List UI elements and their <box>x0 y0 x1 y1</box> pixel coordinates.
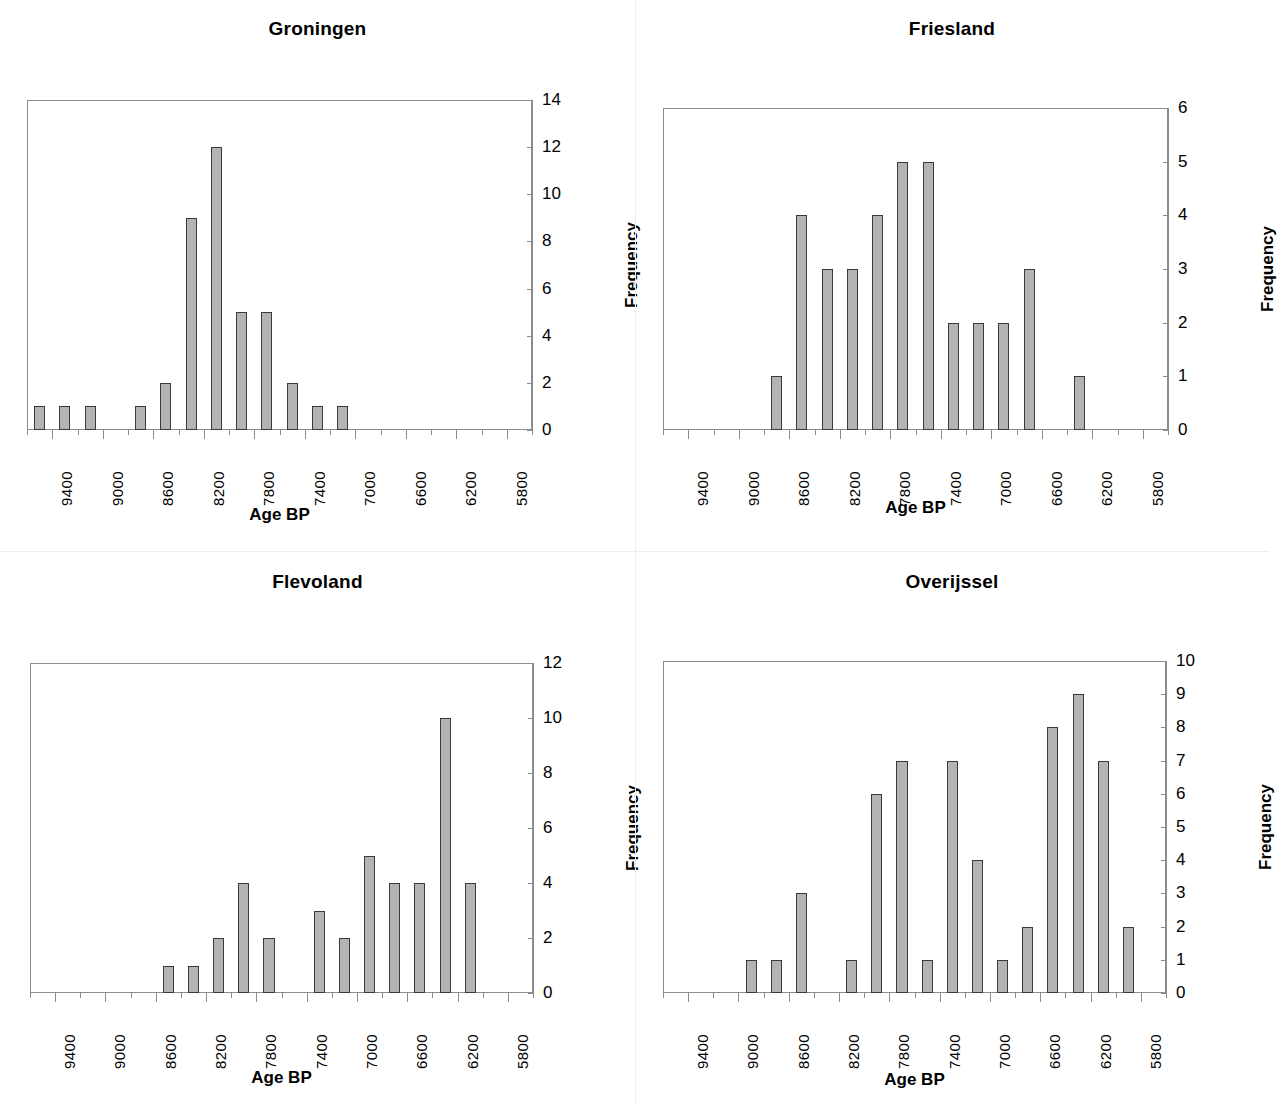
x-axis-tick <box>432 993 433 998</box>
x-axis-tick <box>1118 430 1119 435</box>
x-axis-tick-label: 5800 <box>1147 1034 1164 1069</box>
x-axis-tick <box>30 993 31 998</box>
y-axis-line <box>532 100 533 430</box>
histogram-bin <box>840 108 865 430</box>
y-axis-tick-label: 6 <box>542 279 551 299</box>
histogram-bin <box>256 663 281 993</box>
histogram-bar <box>1024 269 1035 430</box>
x-axis-tick-label: 7000 <box>363 1034 380 1069</box>
y-axis-tick <box>527 383 533 384</box>
histogram-bin <box>738 661 763 993</box>
y-axis-tick <box>1163 215 1169 216</box>
x-axis-tick <box>764 993 765 998</box>
x-axis-tick <box>1141 993 1142 1002</box>
x-axis-tick <box>231 993 232 998</box>
histogram-bar <box>948 323 959 430</box>
histogram-bin <box>27 100 52 430</box>
x-axis-tick-label: 7800 <box>262 1034 279 1069</box>
histogram-bin <box>940 661 965 993</box>
y-axis-tick <box>528 773 534 774</box>
y-axis-tick <box>527 194 533 195</box>
histogram-bin <box>1040 661 1065 993</box>
x-axis-tick <box>738 993 739 1002</box>
x-axis-tick <box>381 430 382 435</box>
y-axis-tick <box>1161 960 1167 961</box>
histogram-bin <box>105 663 130 993</box>
y-axis-tick-label: 0 <box>542 420 551 440</box>
y-axis-tick-label: 10 <box>542 184 561 204</box>
x-axis-tick <box>1091 993 1092 1002</box>
x-axis-tick <box>713 993 714 998</box>
histogram-bin <box>965 661 990 993</box>
x-axis-tick <box>688 430 689 439</box>
y-axis-tick-label: 8 <box>543 763 552 783</box>
histogram-bin <box>231 663 256 993</box>
x-axis-tick <box>507 430 508 439</box>
y-axis-tick <box>527 241 533 242</box>
x-axis-tick <box>1017 430 1018 435</box>
y-axis-tick <box>528 828 534 829</box>
histogram-bin <box>307 663 332 993</box>
x-axis-tick-label: 7800 <box>895 1034 912 1069</box>
histogram-bin <box>103 100 128 430</box>
histogram-bar <box>440 718 451 993</box>
x-axis-tick-label: 9400 <box>694 1034 711 1069</box>
x-axis-tick-label: 6600 <box>1046 1034 1063 1069</box>
y-axis-tick <box>527 430 533 431</box>
y-axis-tick-label: 14 <box>542 90 561 110</box>
histogram-bin <box>305 100 330 430</box>
x-axis-tick <box>181 993 182 998</box>
x-axis-tick <box>482 430 483 435</box>
histogram-bin <box>739 108 764 430</box>
histogram-bar <box>973 323 984 430</box>
y-axis-tick <box>527 100 533 101</box>
x-axis-tick <box>131 993 132 998</box>
x-axis-tick <box>280 430 281 435</box>
x-axis-tick-label: 6600 <box>412 471 429 506</box>
histogram-bin <box>815 108 840 430</box>
plot-friesland: 9400900086008200780074007000660062005800… <box>663 108 1168 430</box>
histogram-bar <box>339 938 350 993</box>
histogram-bar <box>1123 927 1134 993</box>
histogram-bar <box>238 883 249 993</box>
histogram-bar <box>314 911 325 994</box>
histogram-bar <box>135 406 146 430</box>
histogram-bin <box>80 663 105 993</box>
histogram-bar <box>846 960 857 993</box>
histogram-bin <box>482 100 507 430</box>
yaxis-flevoland: 024681012Frequency <box>533 663 643 993</box>
x-axis-tick <box>965 993 966 998</box>
histogram-bin <box>431 100 456 430</box>
y-axis-tick <box>1161 860 1167 861</box>
y-axis-tick-label: 12 <box>542 137 561 157</box>
histogram-bin <box>890 108 915 430</box>
chart-title-friesland: Friesland <box>635 18 1269 40</box>
x-axis-tick <box>332 993 333 998</box>
x-axis-tick-label: 8200 <box>845 1034 862 1069</box>
histogram-bin <box>1118 108 1143 430</box>
x-axis-tick <box>357 993 358 1002</box>
x-axis-tick-label: 7400 <box>313 1034 330 1069</box>
y-axis-tick-label: 2 <box>1176 917 1185 937</box>
histogram-bin <box>889 661 914 993</box>
x-axis-tick-label: 7800 <box>260 471 277 506</box>
histogram-bin <box>406 100 431 430</box>
histogram-bin <box>280 100 305 430</box>
histogram-bar <box>163 966 174 994</box>
y-axis-tick-label: 6 <box>1176 784 1185 804</box>
histogram-bin <box>282 663 307 993</box>
y-axis-tick-label: 4 <box>542 326 551 346</box>
y-axis-tick <box>1163 430 1169 431</box>
x-axis-tick-label: 5800 <box>513 471 530 506</box>
x-axis-tick-label: 9000 <box>744 1034 761 1069</box>
histogram-bin <box>1066 661 1091 993</box>
histogram-bar <box>85 406 96 430</box>
histogram-bin <box>1015 661 1040 993</box>
x-axis-tick-label: 7000 <box>996 1034 1013 1069</box>
y-axis-tick <box>527 289 533 290</box>
y-axis-tick-label: 10 <box>543 708 562 728</box>
histogram-bin <box>1017 108 1042 430</box>
x-axis-tick <box>714 430 715 435</box>
y-axis-tick-label: 1 <box>1176 950 1185 970</box>
histogram-bar <box>188 966 199 994</box>
